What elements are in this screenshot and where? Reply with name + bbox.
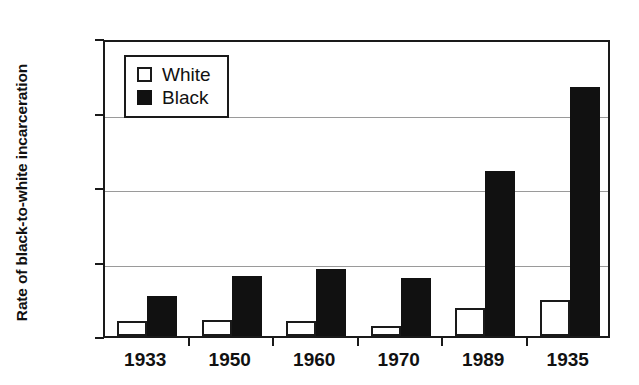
x-axis-tick-label: 1970 [354,349,444,371]
bar-black-1960 [316,269,346,336]
bar-black-1989 [485,171,515,336]
bar-white-1935 [540,300,570,336]
x-axis-tick-mark [357,338,359,346]
gridline [105,191,608,192]
bar-white-1960 [286,321,316,336]
bar-chart-figure: Rate of black-to-white incarceration 00.… [0,0,639,385]
bar-white-1970 [371,326,401,336]
x-axis-tick-mark [526,338,528,346]
legend-swatch-white-icon [137,67,152,82]
legend-label-black: Black [162,88,208,107]
gridline [105,266,608,267]
bar-black-1935 [570,87,600,336]
x-axis-tick-label: 1960 [269,349,359,371]
chart-legend: White Black [124,55,229,118]
bar-white-1989 [455,308,485,336]
x-axis-tick-mark [272,338,274,346]
plot-area: White Black [103,40,610,338]
x-axis-tick-label: 1933 [100,349,190,371]
legend-item-white: White [137,63,211,86]
y-axis-title: Rate of black-to-white incarceration [0,0,44,385]
bar-black-1970 [401,278,431,336]
bar-white-1950 [202,320,232,336]
bar-black-1950 [232,276,262,336]
x-axis-tick-label: 1989 [438,349,528,371]
bar-white-1933 [117,321,147,336]
legend-swatch-black-icon [137,90,152,105]
x-axis-tick-mark [441,338,443,346]
legend-item-black: Black [137,86,211,109]
bar-black-1933 [147,296,177,336]
x-axis-tick-mark [188,338,190,346]
x-axis-tick-label: 1950 [185,349,275,371]
legend-label-white: White [162,65,211,84]
x-axis-tick-label: 1935 [523,349,613,371]
